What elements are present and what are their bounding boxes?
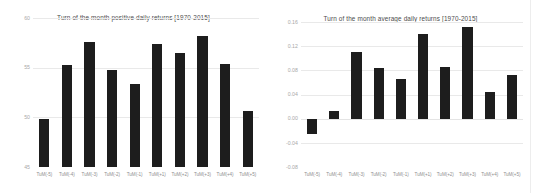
bar — [374, 68, 384, 119]
bar — [485, 92, 495, 119]
y-axis-tick-label: 0.08 — [267, 67, 298, 73]
bar — [307, 119, 317, 134]
bar — [39, 119, 49, 167]
bar — [220, 64, 230, 167]
figure-two-panel-bar-charts: Turn of the month positive daily returns… — [0, 0, 535, 193]
y-axis-tick-label: 0.16 — [267, 19, 298, 25]
bar — [440, 67, 450, 118]
gridline — [301, 143, 523, 144]
x-axis-tick-label: TuM(+4) — [479, 172, 501, 177]
gridline — [33, 18, 259, 19]
bar — [243, 111, 253, 167]
y-axis-tick-label: 55 — [0, 64, 30, 70]
gridline — [301, 22, 523, 23]
x-axis-tick-label: TuM(-3) — [345, 172, 367, 177]
bar — [329, 111, 339, 119]
zero-line — [301, 119, 523, 120]
gridline — [301, 46, 523, 47]
y-axis-tick-label: 0.00 — [267, 115, 298, 121]
y-axis-tick-label: -0.04 — [267, 140, 298, 146]
x-axis-tick-label: TuM(+1) — [146, 172, 169, 177]
bar — [107, 70, 117, 167]
x-axis-tick-label: TuM(+1) — [412, 172, 434, 177]
figure-right-edge-divider — [530, 0, 531, 193]
x-axis-tick-label: TuM(-2) — [101, 172, 124, 177]
bar — [130, 84, 140, 167]
x-axis-tick-label: TuM(-1) — [390, 172, 412, 177]
plot-area-left — [33, 18, 259, 167]
gridline — [301, 70, 523, 71]
x-axis-tick-label: TuM(+4) — [214, 172, 237, 177]
chart-panel-positive-returns: Turn of the month positive daily returns… — [0, 0, 267, 193]
x-axis-tick-label: TuM(-2) — [368, 172, 390, 177]
bar — [351, 52, 361, 118]
chart-panel-average-returns: Turn of the month average daily returns … — [267, 0, 534, 193]
y-axis-tick-label: 0.04 — [267, 91, 298, 97]
y-axis-tick-label: -0.08 — [267, 164, 298, 170]
plot-area-right — [301, 22, 523, 167]
bar — [175, 53, 185, 167]
x-axis-tick-label: TuM(-4) — [56, 172, 79, 177]
x-axis-tick-label: TuM(-3) — [78, 172, 101, 177]
x-axis-tick-label: TuM(+5) — [236, 172, 259, 177]
x-axis-tick-label: TuM(-5) — [301, 172, 323, 177]
bar — [418, 34, 428, 119]
x-axis-tick-label: TuM(-5) — [33, 172, 56, 177]
bar — [152, 44, 162, 167]
x-axis-tick-label: TuM(+3) — [456, 172, 478, 177]
x-axis-tick-label: TuM(+5) — [501, 172, 523, 177]
y-axis-tick-label: 0.12 — [267, 43, 298, 49]
bar — [462, 27, 472, 119]
y-axis-tick-label: 50 — [0, 114, 30, 120]
bar — [507, 75, 517, 119]
x-axis-tick-label: TuM(+2) — [169, 172, 192, 177]
bar — [197, 36, 207, 167]
y-axis-tick-label: 45 — [0, 164, 30, 170]
chart-title-right: Turn of the month average daily returns … — [267, 15, 534, 22]
x-axis-tick-label: TuM(+3) — [191, 172, 214, 177]
y-axis-tick-label: 60 — [0, 15, 30, 21]
bar — [84, 42, 94, 167]
bar — [396, 79, 406, 119]
x-axis-tick-label: TuM(-1) — [123, 172, 146, 177]
x-axis-tick-label: TuM(+2) — [434, 172, 456, 177]
x-axis-tick-label: TuM(-4) — [323, 172, 345, 177]
bar — [62, 65, 72, 167]
